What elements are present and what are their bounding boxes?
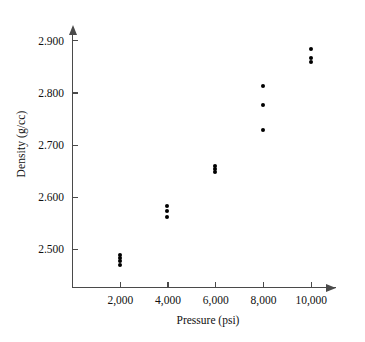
x-tick: 8,000 <box>263 282 264 287</box>
y-axis-arrow-icon <box>69 25 77 35</box>
y-tick-label: 2.700 <box>38 139 64 151</box>
y-tick-label: 2.800 <box>38 87 64 99</box>
y-tick-label: 2.600 <box>38 191 64 203</box>
x-tick-label: 10,000 <box>295 294 327 306</box>
data-point <box>309 60 313 64</box>
y-tick: 2.600 <box>73 197 78 198</box>
data-point <box>261 103 265 107</box>
y-axis-title: Density (g/cc) <box>6 0 36 288</box>
x-tick-label: 2,000 <box>107 294 133 306</box>
x-tick: 10,000 <box>311 282 312 287</box>
y-tick: 2.500 <box>73 249 78 250</box>
y-axis-title-text: Density (g/cc) <box>15 111 27 178</box>
data-point <box>165 204 169 208</box>
x-axis-title: Pressure (psi) <box>72 314 344 326</box>
data-point <box>309 47 313 51</box>
x-tick: 6,000 <box>215 282 216 287</box>
x-tick-label: 4,000 <box>155 294 181 306</box>
x-tick: 4,000 <box>167 282 168 287</box>
y-tick: 2.900 <box>73 40 78 41</box>
x-tick: 2,000 <box>120 282 121 287</box>
data-point <box>261 128 265 132</box>
x-axis-line <box>72 287 336 288</box>
plot-area: 2.5002.6002.7002.8002.900 2,0004,0006,00… <box>72 22 344 288</box>
data-point <box>165 215 169 219</box>
data-point <box>165 209 169 213</box>
x-axis-arrow-icon <box>326 284 336 292</box>
y-tick-label: 2.900 <box>38 35 64 47</box>
y-tick-label: 2.500 <box>38 243 64 255</box>
scatter-plot-figure: Density (g/cc) 2.5002.6002.7002.8002.900… <box>0 0 365 342</box>
x-tick-label: 8,000 <box>251 294 277 306</box>
data-point <box>118 263 122 267</box>
x-tick-label: 6,000 <box>203 294 229 306</box>
y-tick: 2.800 <box>73 92 78 93</box>
y-tick: 2.700 <box>73 145 78 146</box>
data-point <box>261 84 265 88</box>
data-point <box>213 170 217 174</box>
